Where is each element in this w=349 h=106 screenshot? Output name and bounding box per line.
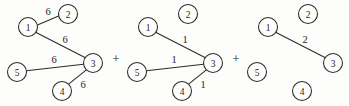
graph-edge-1-3 [36, 32, 86, 58]
graph-decomposition-figure: 66661234511112345212345++ [0, 0, 349, 106]
graph-node-label-1: 1 [266, 23, 271, 33]
edge-weight-label-1-3: 1 [182, 34, 187, 45]
graph-node-label-1: 1 [146, 23, 151, 33]
graph-node-label-4: 4 [180, 87, 185, 97]
graph-1: 666612345 [8, 5, 103, 101]
graph-node-label-5: 5 [15, 68, 20, 78]
graph-node-label-4: 4 [60, 87, 65, 97]
edge-weight-label-1-3: 6 [62, 34, 67, 45]
graph-node-label-1: 1 [26, 23, 31, 33]
graph-node-label-2: 2 [306, 10, 311, 20]
graph-edge-5-3 [146, 64, 203, 70]
edge-weight-label-4-3: 6 [80, 79, 85, 90]
edge-weight-label-1-3: 2 [302, 34, 307, 45]
edge-weight-label-5-3: 6 [51, 54, 56, 65]
graph-node-label-3: 3 [211, 59, 216, 69]
graph-node-label-2: 2 [186, 10, 191, 20]
graph-edge-1-3 [276, 32, 326, 58]
graph-node-label-5: 5 [135, 68, 140, 78]
graph-2: 11112345 [128, 5, 223, 101]
edge-weight-label-4-3: 1 [200, 79, 205, 90]
plus-operator-2: + [232, 51, 239, 66]
graph-diagram-canvas: 66661234511112345212345++ [0, 0, 349, 106]
graph-node-label-3: 3 [91, 59, 96, 69]
graph-edge-1-3 [156, 32, 206, 58]
edge-weight-label-5-3: 1 [171, 54, 176, 65]
graph-edge-1-2 [37, 16, 58, 25]
edge-weight-label-1-2: 6 [45, 6, 50, 17]
graph-node-label-3: 3 [331, 59, 336, 69]
graph-3: 212345 [248, 5, 343, 101]
graph-edge-5-3 [26, 64, 83, 70]
graph-node-label-4: 4 [300, 87, 305, 97]
graph-node-label-5: 5 [255, 68, 260, 78]
graph-node-label-2: 2 [66, 10, 71, 20]
plus-operator-1: + [112, 51, 119, 66]
